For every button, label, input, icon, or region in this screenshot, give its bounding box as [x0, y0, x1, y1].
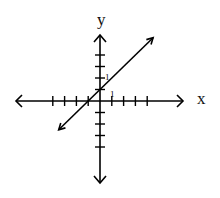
axes [16, 35, 183, 183]
y-tick-label-1: 1 [105, 72, 110, 82]
coordinate-plane [0, 0, 220, 198]
line-series [59, 38, 153, 130]
x-tick-label-1: 1 [110, 89, 115, 99]
y-axis-label: y [97, 10, 106, 30]
x-axis-label: x [197, 89, 206, 109]
line-y-equals-x-plus-1 [59, 38, 153, 130]
